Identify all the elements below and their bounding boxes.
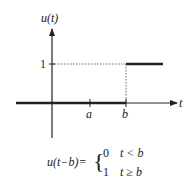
x-tick-label-a: a [86,107,92,121]
x-axis-label: t [179,96,183,110]
formula-lhs: u(t−b)= [47,155,87,169]
y-axis-label: u(t) [41,11,58,25]
y-tick-label-one: 1 [40,57,46,71]
formula-case-1-value: 1 [103,165,109,179]
step-function-diagram: u(t) t 1 a b u(t−b)= { 0 t < b 1 t ≥ b [0,0,193,182]
formula-case-0-condition: t < b [120,146,143,160]
formula-case-1-condition: t ≥ b [120,165,142,179]
formula-case-0-value: 0 [103,146,109,160]
x-tick-label-b: b [122,107,128,121]
